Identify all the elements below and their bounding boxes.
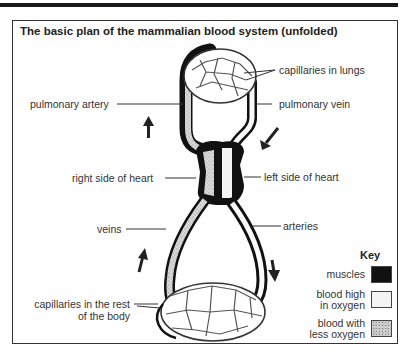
label-pulmonary-vein: pulmonary vein	[279, 98, 350, 110]
arrow-up-veins-icon	[138, 248, 148, 272]
label-capillaries-body-line1: capillaries in the rest	[28, 298, 130, 310]
arrow-down-arteries-icon	[268, 260, 280, 282]
key-label-muscles: muscles	[300, 269, 365, 280]
key-label-less-line2: less oxygen	[300, 329, 365, 340]
label-capillaries-body-line2: of the body	[28, 310, 130, 322]
arrow-down-pulmonary-vein-icon	[260, 128, 278, 150]
label-pulmonary-artery: pulmonary artery	[30, 98, 109, 110]
label-capillaries-in-lungs: capillaries in lungs	[279, 64, 365, 76]
key-swatch-muscles	[371, 266, 392, 283]
lung-capillaries	[184, 49, 256, 103]
key-swatch-blood-less-oxygen	[371, 320, 392, 337]
label-left-side-of-heart: left side of heart	[264, 171, 339, 183]
key-label-high-line2: in oxygen	[300, 300, 365, 311]
key-swatch-blood-high-oxygen	[371, 291, 392, 308]
key-title: Key	[360, 249, 380, 261]
key-label-blood-high-oxygen: blood high in oxygen	[300, 289, 365, 311]
arrow-up-pulmonary-artery-icon	[143, 116, 154, 138]
key-label-blood-less-oxygen: blood with less oxygen	[300, 318, 365, 340]
key-label-muscles-line1: muscles	[300, 269, 365, 280]
label-right-side-of-heart: right side of heart	[72, 172, 153, 184]
label-arteries: arteries	[283, 220, 318, 232]
label-veins: veins	[97, 223, 122, 235]
label-capillaries-body: capillaries in the rest of the body	[28, 298, 130, 322]
